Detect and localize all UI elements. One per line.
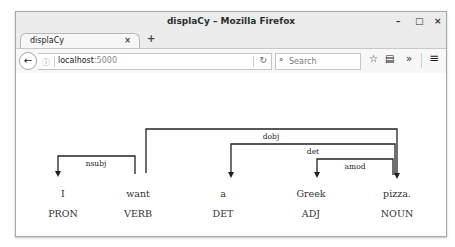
minimize-button[interactable]: – [396, 16, 401, 26]
search-icon: ⌕ [279, 55, 283, 65]
toolbar-separator [421, 53, 422, 68]
overflow-chevron-icon[interactable]: » [406, 53, 412, 64]
token-0: I PRON [48, 188, 78, 219]
token-3: Greek ADJ [296, 188, 325, 219]
token-tag: ADJ [301, 208, 320, 219]
url-host: localhost [58, 56, 94, 65]
token-2: a DET [213, 188, 235, 219]
url-text[interactable]: localhost:5000 [58, 56, 117, 65]
arc-label-det: det [307, 147, 319, 156]
url-bar[interactable]: ⓘ localhost:5000 ↻ [38, 53, 272, 70]
search-bar[interactable]: ⌕ [275, 53, 361, 70]
clipboard-icon[interactable]: ▤ [385, 53, 394, 64]
arc-label-nsubj: nsubj [86, 159, 107, 168]
token-text: want [126, 188, 150, 199]
arrowhead-icon [55, 171, 61, 177]
url-port: :5000 [94, 56, 117, 65]
search-input[interactable] [289, 55, 357, 67]
arc-amod: amod [314, 159, 393, 178]
back-arrow-icon: ← [24, 55, 32, 66]
browser-window: displaCy – Mozilla Firefox – □ × displaC… [15, 11, 447, 237]
dependency-parse-diagram: dobj det amod nsubj I [16, 73, 446, 236]
info-icon[interactable]: ⓘ [42, 56, 50, 67]
tab-displacy[interactable]: displaCy × [20, 33, 140, 49]
arrowhead-icon [314, 172, 320, 178]
arrowhead-icon [228, 172, 234, 178]
reload-separator [253, 56, 254, 67]
tab-label: displaCy [30, 36, 64, 45]
navigation-bar: ← ⓘ localhost:5000 ↻ ⌕ ☆ ▤ » ≡ [16, 48, 446, 74]
title-bar: displaCy – Mozilla Firefox – □ × [16, 12, 446, 32]
token-tag: DET [213, 208, 235, 219]
tab-close-icon[interactable]: × [124, 36, 131, 45]
token-1: want VERB [123, 188, 152, 219]
arc-label-dobj: dobj [263, 132, 279, 141]
token-text: a [220, 188, 226, 199]
back-button[interactable]: ← [19, 52, 37, 70]
token-text: Greek [296, 188, 325, 199]
bookmark-star-icon[interactable]: ☆ [369, 53, 378, 64]
arc-label-amod: amod [345, 162, 366, 171]
tab-bar: displaCy × + [16, 32, 446, 48]
window-title: displaCy – Mozilla Firefox [16, 16, 446, 26]
token-text: pizza. [383, 188, 411, 199]
reload-icon[interactable]: ↻ [259, 55, 267, 65]
token-tag: PRON [48, 208, 78, 219]
url-separator [54, 56, 55, 67]
token-tag: VERB [123, 208, 152, 219]
token-4: pizza. NOUN [381, 188, 413, 219]
maximize-button[interactable]: □ [415, 16, 424, 26]
new-tab-button[interactable]: + [147, 33, 155, 44]
close-window-button[interactable]: × [434, 16, 442, 26]
hamburger-menu-icon[interactable]: ≡ [429, 51, 439, 65]
token-tag: NOUN [381, 208, 413, 219]
arc-dobj: dobj [146, 129, 400, 179]
displacy-page: dobj det amod nsubj I [16, 73, 446, 236]
arc-det: det [228, 144, 395, 178]
arc-nsubj: nsubj [55, 156, 135, 177]
token-text: I [61, 188, 65, 199]
